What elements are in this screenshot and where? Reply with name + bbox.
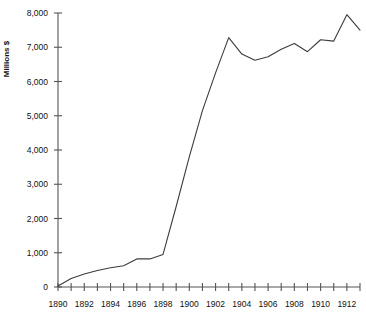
data-series-line: [58, 15, 360, 286]
plot-area: [0, 0, 366, 320]
axes: [58, 13, 360, 287]
line-chart: Millions $ 01,0002,0003,0004,0005,0006,0…: [0, 0, 366, 320]
